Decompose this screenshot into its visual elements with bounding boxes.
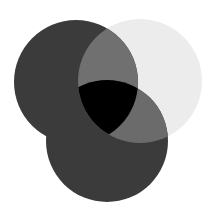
- venn-diagram: [0, 0, 203, 216]
